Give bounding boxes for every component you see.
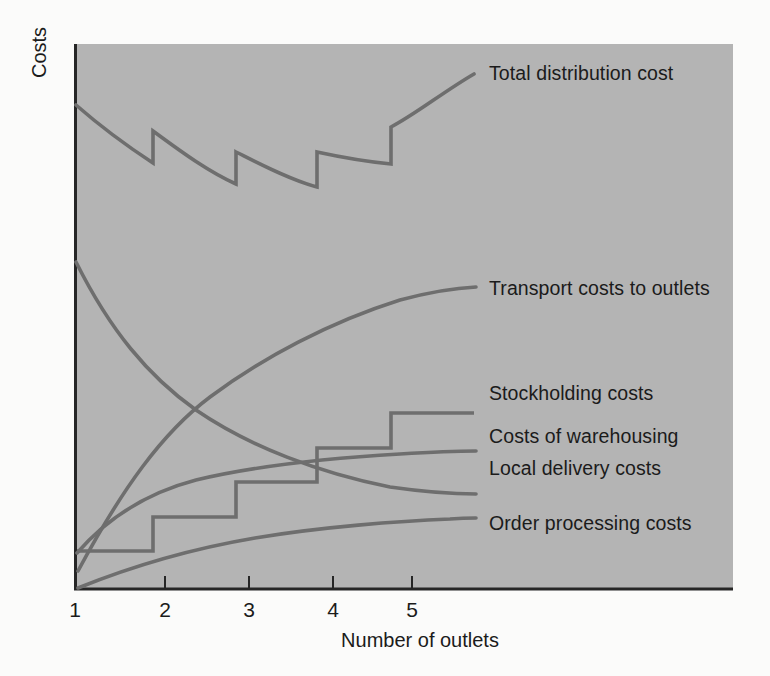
series-label-order-processing-costs: Order processing costs [489, 512, 692, 534]
x-axis-title: Number of outlets [341, 629, 499, 651]
series-label-total-distribution-cost: Total distribution cost [489, 62, 674, 84]
cost-tradeoff-chart: 1 2 3 4 5 Number of outlets Costs Total … [0, 0, 770, 676]
y-axis-title: Costs [28, 27, 50, 78]
series-label-local-delivery-costs: Local delivery costs [489, 457, 661, 479]
x-tick-label-1: 1 [69, 598, 81, 621]
x-tick-label-4: 4 [327, 598, 339, 621]
series-label-transport-costs-to-outlets: Transport costs to outlets [489, 277, 710, 299]
figure-container: 1 2 3 4 5 Number of outlets Costs Total … [0, 0, 770, 676]
x-tick-label-2: 2 [159, 598, 171, 621]
x-tick-label-3: 3 [243, 598, 255, 621]
series-label-stockholding-costs: Stockholding costs [489, 382, 654, 404]
plot-background [76, 44, 733, 590]
x-tick-label-5: 5 [406, 598, 418, 621]
series-label-costs-of-warehousing: Costs of warehousing [489, 425, 679, 447]
